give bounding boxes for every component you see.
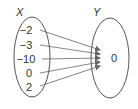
codomain-element: 0 bbox=[111, 52, 117, 64]
domain-element: −10 bbox=[17, 53, 36, 65]
domain-element: −3 bbox=[20, 39, 33, 51]
domain-set-label: X bbox=[15, 6, 24, 18]
codomain-set: Y 0 bbox=[91, 6, 129, 98]
domain-element: 2 bbox=[26, 81, 32, 93]
domain-element: 0 bbox=[26, 67, 32, 79]
codomain-set-label: Y bbox=[93, 6, 101, 18]
mapping-arrows bbox=[40, 30, 100, 86]
domain-set: X −2 −3 −10 0 2 bbox=[14, 6, 50, 97]
mapping-diagram: X −2 −3 −10 0 2 Y 0 bbox=[0, 0, 138, 109]
domain-element: −2 bbox=[20, 24, 33, 36]
